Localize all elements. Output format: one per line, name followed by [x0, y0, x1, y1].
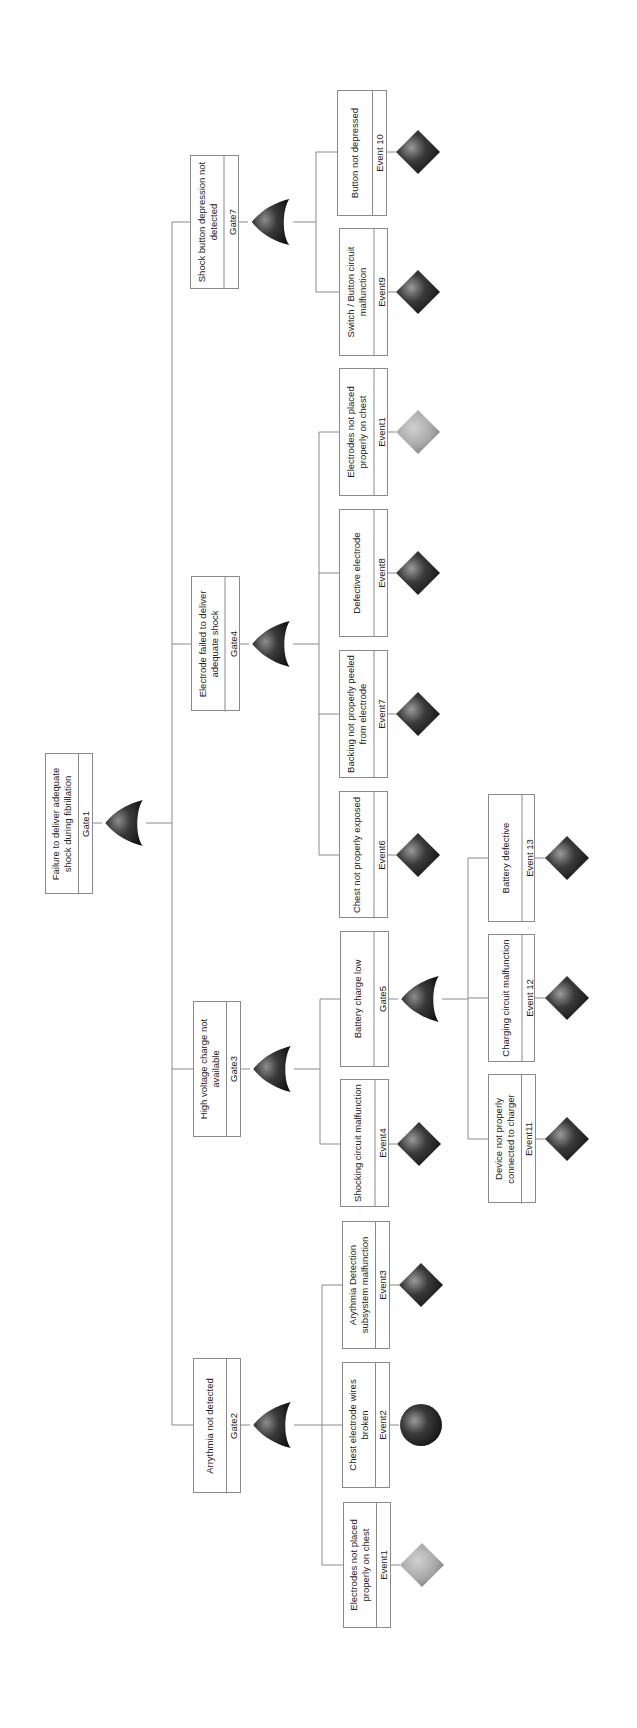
event2-label: Chest electrode wires broken	[342, 1362, 375, 1488]
or-gate-icon-gate5	[401, 976, 438, 1022]
event6-id: Event6	[373, 791, 388, 918]
event3-id: Event3	[375, 1221, 390, 1349]
event4-id: Event4	[374, 1079, 389, 1207]
event1b-label: Electrodes not placed properly on chest	[339, 368, 373, 496]
event8-id: Event8	[373, 509, 388, 637]
event1b-box[interactable]: Electrodes not placed properly on chest …	[339, 368, 388, 496]
event10-box[interactable]: Button not depressed Event 10	[337, 90, 387, 216]
event1a-label: Electrodes not placed properly on chest	[343, 1502, 376, 1628]
event11-label: Device not properly connected to charger	[488, 1074, 521, 1203]
diamond-light-icon-event1b	[396, 410, 440, 454]
event1a-id: Event1	[376, 1502, 391, 1628]
gate3-box[interactable]: High voltage charge not available Gate3	[193, 1001, 241, 1137]
gate2-id: Gate2	[226, 1358, 241, 1493]
event7-id: Event7	[373, 650, 388, 778]
gate5-label: Battery charge low	[340, 931, 373, 1067]
event11-box[interactable]: Device not properly connected to charger…	[488, 1074, 536, 1203]
diamond-icon-event6	[396, 833, 440, 877]
gate7-box[interactable]: Shock button depression not detected Gat…	[190, 155, 239, 289]
diamond-icon-event4	[397, 1122, 441, 1166]
gate4-box[interactable]: Electrode failed to deliver adequate sho…	[191, 576, 240, 711]
event7-box[interactable]: Backing not properly peeled from electro…	[339, 650, 388, 778]
event2-box[interactable]: Chest electrode wires broken Event2	[342, 1362, 390, 1488]
event12-box[interactable]: Charging circuit malfunction Event 12	[488, 934, 535, 1062]
event10-id: Event 10	[372, 90, 387, 216]
event8-label: Defective electrode	[339, 509, 373, 637]
event7-label: Backing not properly peeled from electro…	[339, 650, 373, 778]
gate1-label: Failure to deliver adequate shock during…	[45, 753, 78, 894]
event1a-box[interactable]: Electrodes not placed properly on chest …	[343, 1502, 391, 1628]
connector-lines	[0, 0, 637, 1728]
event4-box[interactable]: Shocking circuit malfunction Event4	[340, 1079, 389, 1207]
event10-label: Button not depressed	[337, 90, 372, 216]
diamond-icon-event11	[545, 1117, 589, 1161]
event9-label: Switch / Button circuit malfunction	[339, 228, 373, 356]
diamond-icon-event10	[396, 130, 440, 174]
diamond-icon-event13	[545, 836, 589, 880]
event3-box[interactable]: Arythmia Detection subsystem malfunction…	[342, 1221, 390, 1349]
event12-id: Event 12	[521, 934, 535, 1062]
diamond-icon-event9	[396, 270, 440, 314]
or-gate-icon-gate7	[252, 199, 289, 245]
diamond-icon-event3	[399, 1263, 443, 1307]
gate2-box[interactable]: Arrythmia not detected Gate2	[193, 1358, 241, 1493]
gate5-id: Gate5	[373, 931, 389, 1067]
event13-id: Event 13	[521, 794, 535, 922]
event2-id: Event2	[375, 1362, 390, 1488]
event6-box[interactable]: Chest not properly exposed Event6	[339, 791, 388, 918]
event8-box[interactable]: Defective electrode Event8	[339, 509, 388, 637]
circle-icon-event2	[400, 1404, 442, 1446]
event12-label: Charging circuit malfunction	[488, 934, 521, 1062]
event9-box[interactable]: Switch / Button circuit malfunction Even…	[339, 228, 388, 356]
event13-box[interactable]: Battery defective Event 13	[488, 794, 535, 922]
gate5-box[interactable]: Battery charge low Gate5	[340, 931, 389, 1067]
gate3-label: High voltage charge not available	[193, 1001, 226, 1137]
event13-label: Battery defective	[488, 794, 521, 922]
gate4-label: Electrode failed to deliver adequate sho…	[191, 576, 224, 711]
event1b-id: Event1	[373, 368, 388, 496]
event4-label: Shocking circuit malfunction	[340, 1079, 374, 1207]
event3-label: Arythmia Detection subsystem malfunction	[342, 1221, 375, 1349]
gate2-label: Arrythmia not detected	[193, 1358, 226, 1493]
event11-id: Event11	[521, 1074, 536, 1203]
diamond-icon-event12	[545, 976, 589, 1020]
or-gate-icon-gate1	[105, 800, 142, 846]
gate7-label: Shock button depression not detected	[190, 155, 223, 289]
diamond-light-icon-event1a	[400, 1543, 444, 1587]
event9-id: Event9	[373, 228, 388, 356]
gate1-id: Gate1	[78, 753, 93, 894]
or-gate-icon-gate3	[253, 1046, 290, 1092]
diamond-icon-event7	[396, 692, 440, 736]
or-gate-icon-gate2	[253, 1402, 290, 1448]
event6-label: Chest not properly exposed	[339, 791, 373, 918]
gate4-id: Gate4	[224, 576, 240, 711]
gate3-id: Gate3	[226, 1001, 241, 1137]
diamond-icon-event8	[396, 551, 440, 595]
gate7-id: Gate7	[223, 155, 239, 289]
or-gate-icon-gate4	[252, 621, 289, 667]
gate1-box[interactable]: Failure to deliver adequate shock during…	[45, 753, 93, 894]
